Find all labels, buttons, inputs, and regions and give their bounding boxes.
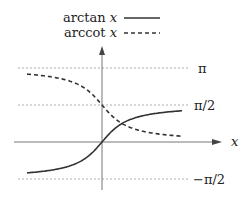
neg-half-pi-label: −π/2 bbox=[193, 172, 225, 187]
legend: arctan x arccot x bbox=[63, 10, 160, 40]
legend-arccot-label: arccot x bbox=[64, 25, 118, 40]
chart: arctan x arccot x π π/2 −π/2 x bbox=[0, 0, 252, 201]
reference-lines bbox=[18, 68, 190, 179]
y-axis-arrow-icon bbox=[99, 46, 105, 55]
x-axis-arrow-icon bbox=[212, 139, 222, 145]
half-pi-label: π/2 bbox=[194, 98, 215, 113]
x-axis-label: x bbox=[231, 134, 239, 149]
legend-arctan-label: arctan x bbox=[63, 10, 118, 25]
pi-label: π bbox=[198, 61, 207, 76]
